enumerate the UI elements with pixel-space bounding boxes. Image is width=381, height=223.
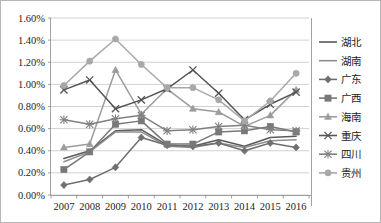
data-point-marker <box>292 127 300 135</box>
x-axis-tick-label: 2010 <box>131 201 152 212</box>
line-chart-svg: 0.00%0.20%0.40%0.60%0.80%1.00%1.20%1.40%… <box>1 1 381 223</box>
legend-item-label: 广西 <box>341 92 361 104</box>
legend-group: 湖北湖南广东广西海南重庆四川贵州 <box>319 36 362 179</box>
data-point-marker <box>86 141 93 147</box>
data-point-marker <box>61 166 67 172</box>
series-line <box>64 132 296 162</box>
data-point-marker <box>266 126 274 134</box>
x-axis-tick-label: 2008 <box>79 201 100 212</box>
y-axis-tick-label: 0.20% <box>18 167 45 178</box>
data-point-marker <box>137 111 145 119</box>
y-axis-tick-label: 0.80% <box>18 101 45 112</box>
y-axis-tick-label: 1.40% <box>18 35 45 46</box>
data-point-marker <box>138 96 145 103</box>
data-point-marker <box>293 144 300 151</box>
data-point-marker <box>241 118 247 124</box>
data-point-marker <box>87 149 93 155</box>
data-point-marker <box>189 66 196 73</box>
data-point-marker <box>87 58 93 64</box>
x-axis-tick-label: 2014 <box>234 201 256 212</box>
legend-swatch-marker <box>325 170 331 176</box>
data-point-marker <box>61 82 67 88</box>
legend-item-广西[interactable]: 广西 <box>319 92 361 104</box>
data-point-marker <box>241 147 248 154</box>
x-axis-tick-label: 2007 <box>53 201 74 212</box>
data-point-marker <box>138 61 144 67</box>
data-point-marker <box>215 122 223 130</box>
y-axis-tick-label: 0.40% <box>18 145 45 156</box>
data-point-marker <box>86 176 93 183</box>
gridlines-group <box>51 18 309 195</box>
data-point-marker <box>164 85 170 91</box>
x-axis-tick-label: 2012 <box>182 201 203 212</box>
chart-plot-area: 0.00%0.20%0.40%0.60%0.80%1.00%1.20%1.40%… <box>1 1 381 223</box>
x-axis-tick-label: 2009 <box>105 201 126 212</box>
data-point-marker <box>86 120 94 128</box>
data-point-marker <box>111 114 119 122</box>
legend-item-label: 贵州 <box>341 167 361 179</box>
legend-item-label: 广东 <box>341 73 361 85</box>
data-point-marker <box>61 181 68 188</box>
y-axis-tick-label: 0.60% <box>18 123 45 134</box>
data-point-marker <box>267 98 273 104</box>
data-point-marker <box>112 36 118 42</box>
data-point-marker <box>60 116 68 124</box>
y-axis-tick-label: 1.00% <box>18 79 45 90</box>
series-group <box>60 36 301 189</box>
data-point-marker <box>112 66 119 72</box>
x-axis-labels-group: 2007200820092010201120122013201420152016 <box>53 201 306 212</box>
data-point-marker <box>86 76 93 83</box>
legend-swatch-marker <box>325 76 332 83</box>
y-axis-tick-label: 1.20% <box>18 57 45 68</box>
data-point-marker <box>163 127 171 135</box>
data-point-marker <box>216 97 222 103</box>
data-point-marker <box>164 141 170 147</box>
tickmarks-group <box>48 18 309 199</box>
data-point-marker <box>189 126 197 134</box>
series-line <box>64 70 296 120</box>
legend-item-贵州[interactable]: 贵州 <box>319 167 361 179</box>
data-point-marker <box>293 70 299 76</box>
legend-swatch-marker <box>325 95 331 101</box>
data-point-marker <box>190 141 196 147</box>
y-axis-tick-label: 0.00% <box>18 190 45 201</box>
x-axis-tick-label: 2015 <box>260 201 281 212</box>
y-axis-tick-label: 1.60% <box>18 13 45 24</box>
legend-item-广东[interactable]: 广东 <box>319 73 361 85</box>
legend-item-湖南[interactable]: 湖南 <box>319 55 361 67</box>
legend-item-四川[interactable]: 四川 <box>319 148 361 160</box>
legend-item-label: 湖南 <box>341 55 361 67</box>
x-axis-tick-label: 2011 <box>157 201 178 212</box>
data-point-marker <box>215 90 222 97</box>
x-axis-tick-label: 2016 <box>286 201 307 212</box>
data-point-marker <box>190 85 196 91</box>
series-重庆 <box>60 66 299 123</box>
legend-item-海南[interactable]: 海南 <box>319 111 361 123</box>
legend-item-label: 湖北 <box>341 36 362 48</box>
chart-container: 0.00%0.20%0.40%0.60%0.80%1.00%1.20%1.40%… <box>0 0 381 223</box>
legend-item-label: 四川 <box>341 148 361 160</box>
legend-item-重庆[interactable]: 重庆 <box>319 130 362 142</box>
x-axis-tick-label: 2013 <box>208 201 229 212</box>
legend-item-湖北[interactable]: 湖北 <box>319 36 362 48</box>
series-湖南 <box>64 132 296 162</box>
legend-item-label: 重庆 <box>341 130 362 142</box>
legend-item-label: 海南 <box>341 111 361 123</box>
series-四川 <box>60 111 301 135</box>
legend-swatch-marker <box>324 150 332 158</box>
y-axis-labels-group: 0.00%0.20%0.40%0.60%0.80%1.00%1.20%1.40%… <box>18 13 45 201</box>
